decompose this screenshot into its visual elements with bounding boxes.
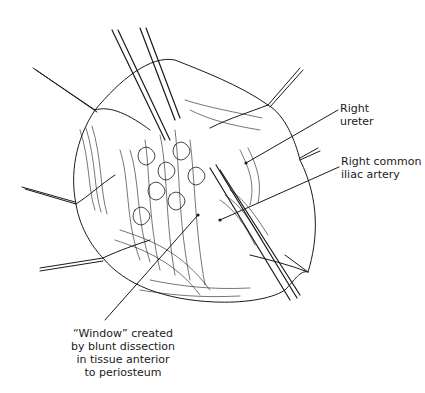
label-right-ureter: Right ureter xyxy=(340,102,374,128)
wound-outline xyxy=(74,59,316,302)
label-line: to periosteum xyxy=(63,366,183,379)
tissue-texture xyxy=(80,100,268,297)
leader-dots xyxy=(196,161,247,221)
label-line: in tissue anterior xyxy=(63,353,183,366)
retractor-lines xyxy=(22,68,320,272)
label-window-dissection: “Window” created by blunt dissection in … xyxy=(63,327,183,379)
label-line: Right common xyxy=(341,155,421,168)
label-line: by blunt dissection xyxy=(63,340,183,353)
label-line: Right xyxy=(340,102,374,115)
label-line: “Window” created xyxy=(63,327,183,340)
label-line: ureter xyxy=(340,115,374,128)
label-line: iliac artery xyxy=(341,168,421,181)
label-right-common-iliac-artery: Right common iliac artery xyxy=(341,155,421,181)
